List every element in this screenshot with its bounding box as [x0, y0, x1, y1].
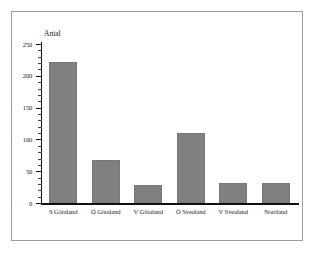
y-tick-label-text: 200: [10, 72, 32, 79]
y-tick-minor: [38, 89, 42, 90]
y-tick-minor: [38, 178, 42, 179]
y-tick-minor: [38, 184, 42, 185]
y-tick-minor: [38, 50, 42, 51]
y-tick-label: 0: [10, 200, 32, 207]
bar: [134, 185, 162, 203]
y-tick-label: 50: [10, 168, 32, 175]
y-tick-minor: [38, 152, 42, 153]
y-axis-title: Antal: [44, 29, 61, 38]
y-tick-label: 100: [10, 136, 32, 143]
y-tick-minor: [38, 82, 42, 83]
chart-figure: Antal 050100150200250 S GötalandÖ Götala…: [0, 0, 318, 256]
y-tick-major: [36, 108, 42, 109]
bar: [177, 133, 205, 203]
y-tick-minor: [38, 133, 42, 134]
x-tick-label: S Götaland: [42, 208, 85, 216]
x-tick-label: V Götaland: [127, 208, 170, 216]
y-tick-major: [36, 76, 42, 77]
plot-area: Antal 050100150200250 S GötalandÖ Götala…: [0, 0, 318, 256]
y-tick-label: 150: [10, 104, 32, 111]
y-tick-minor: [38, 127, 42, 128]
y-tick-major: [36, 139, 42, 140]
y-tick-major: [36, 171, 42, 172]
y-tick-label-text: 50: [10, 168, 32, 175]
y-tick-minor: [38, 95, 42, 96]
y-tick-label: 200: [10, 72, 32, 79]
bar: [219, 183, 247, 203]
x-tick-label: Norrland: [255, 208, 298, 216]
y-axis-line: [41, 42, 42, 204]
y-tick-major: [36, 44, 42, 45]
y-tick-major: [36, 203, 42, 204]
y-tick-minor: [38, 57, 42, 58]
y-tick-minor: [38, 120, 42, 121]
y-tick-label-text: 0: [10, 200, 32, 207]
y-tick-minor: [38, 190, 42, 191]
y-tick-label: 250: [10, 41, 32, 48]
y-tick-minor: [38, 159, 42, 160]
y-tick-minor: [38, 197, 42, 198]
bar: [262, 183, 290, 203]
y-tick-minor: [38, 101, 42, 102]
bar: [49, 62, 77, 203]
y-tick-label-text: 250: [10, 41, 32, 48]
y-tick-label-text: 100: [10, 136, 32, 143]
x-tick-label: Ö Götaland: [85, 208, 128, 216]
y-tick-label-text: 150: [10, 104, 32, 111]
y-tick-minor: [38, 165, 42, 166]
y-tick-minor: [38, 146, 42, 147]
x-tick-label: Ö Svealand: [170, 208, 213, 216]
y-tick-minor: [38, 63, 42, 64]
x-tick-label: V Svealand: [212, 208, 255, 216]
y-tick-minor: [38, 69, 42, 70]
x-axis-line: [41, 203, 299, 205]
bar: [92, 160, 120, 203]
y-tick-minor: [38, 114, 42, 115]
